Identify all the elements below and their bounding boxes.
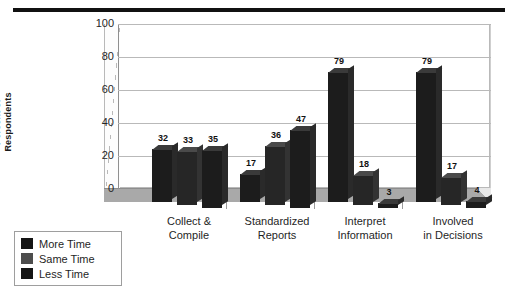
bars-layer: 3233351736477918379174 xyxy=(104,20,504,212)
bar-value-label: 3 xyxy=(374,187,404,197)
legend-label-same-time: Same Time xyxy=(39,253,95,265)
chart-legend: More Time Same Time Less Time xyxy=(14,231,122,286)
bar-body xyxy=(441,177,461,205)
legend-swatch-same-time xyxy=(21,253,33,264)
bar-body xyxy=(416,72,436,202)
x-category-label-line: Involved xyxy=(398,214,508,228)
x-category-label: Involvedin Decisions xyxy=(398,214,508,242)
legend-item-same-time: Same Time xyxy=(21,251,116,266)
bar: 18 xyxy=(353,175,373,205)
bar-body xyxy=(466,201,486,208)
bar-body xyxy=(353,175,373,205)
bar-body xyxy=(290,130,310,208)
bar-value-label: 79 xyxy=(412,56,442,66)
bar: 3 xyxy=(378,203,398,208)
bar: 79 xyxy=(416,72,436,202)
bar-side-face xyxy=(398,196,404,205)
bar-value-label: 18 xyxy=(349,159,379,169)
bar: 32 xyxy=(152,149,172,202)
bar: 47 xyxy=(290,130,310,208)
legend-item-more-time: More Time xyxy=(21,236,116,251)
bar-value-label: 4 xyxy=(462,185,492,195)
legend-swatch-more-time xyxy=(21,238,33,249)
bar-body xyxy=(240,174,260,202)
y-axis-title-line-2: Respondents xyxy=(3,62,14,182)
x-category-label-line: in Decisions xyxy=(398,228,508,242)
bar-side-face xyxy=(310,124,316,205)
bar-chart-figure: Percent of Respondents 100806040200 3233… xyxy=(0,0,518,308)
bar-value-label: 17 xyxy=(437,161,467,171)
bar-body xyxy=(265,146,285,205)
bar: 79 xyxy=(328,72,348,202)
bar-body xyxy=(202,150,222,208)
bar-body xyxy=(378,203,398,208)
bar: 4 xyxy=(466,201,486,208)
bar: 35 xyxy=(202,150,222,208)
legend-swatch-less-time xyxy=(21,268,33,279)
bar-value-label: 17 xyxy=(236,158,266,168)
bar: 17 xyxy=(441,177,461,205)
bar-value-label: 47 xyxy=(286,114,316,124)
legend-item-less-time: Less Time xyxy=(21,266,116,281)
legend-label-more-time: More Time xyxy=(39,238,91,250)
bar-body xyxy=(152,149,172,202)
bar: 36 xyxy=(265,146,285,205)
bar-body xyxy=(328,72,348,202)
bar-body xyxy=(177,151,197,205)
bar-side-face xyxy=(222,144,228,205)
y-axis-title: Percent of Respondents xyxy=(0,62,14,182)
bar-value-label: 35 xyxy=(198,134,228,144)
bar-value-label: 79 xyxy=(324,56,354,66)
bar: 17 xyxy=(240,174,260,202)
bar-value-label: 36 xyxy=(261,130,291,140)
bar: 33 xyxy=(177,151,197,205)
bar-side-face xyxy=(486,195,492,205)
legend-label-less-time: Less Time xyxy=(39,268,89,280)
